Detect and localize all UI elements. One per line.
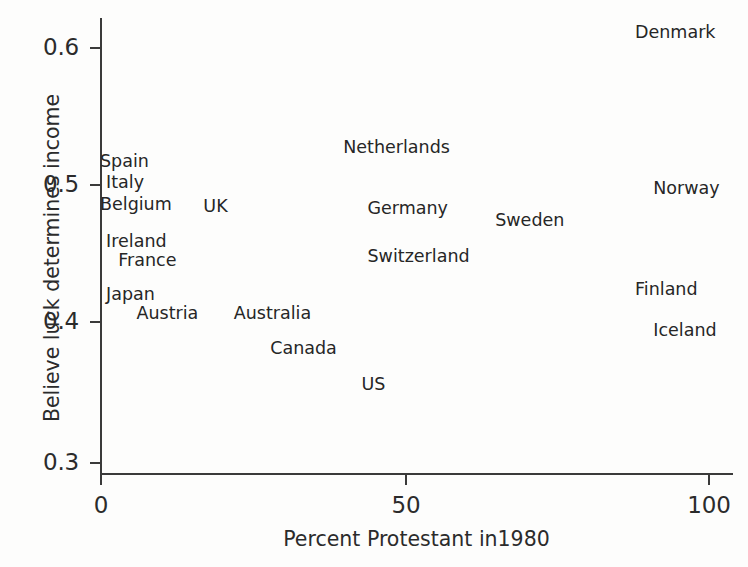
x-tick-50 <box>405 474 407 485</box>
data-point-label: Ireland <box>106 233 167 251</box>
data-point-label: Japan <box>106 286 155 304</box>
x-axis-line <box>100 473 733 475</box>
x-axis-title: Percent Protestant in1980 <box>100 527 733 551</box>
y-axis-title: Believe luck determines income <box>40 58 64 458</box>
data-point-label: Denmark <box>635 24 715 42</box>
data-point-label: Germany <box>368 200 448 218</box>
scatter-plot-figure: 0.6 0.5 0.4 0.3 0 50 100 Believe luck de… <box>0 0 748 567</box>
y-tick-0.4 <box>90 321 101 323</box>
y-tick-0.5 <box>90 184 101 186</box>
data-point-label: Canada <box>270 340 337 358</box>
data-point-label: Switzerland <box>368 248 470 266</box>
data-point-label: Austria <box>136 305 198 323</box>
x-ticklabel-0: 0 <box>71 492 131 518</box>
data-point-label: Finland <box>635 281 698 299</box>
x-tick-100 <box>708 474 710 485</box>
data-point-label: Belgium <box>100 196 172 214</box>
data-point-label: Spain <box>100 153 149 171</box>
x-tick-0 <box>100 474 102 485</box>
data-point-label: Australia <box>234 305 311 323</box>
data-point-label: Sweden <box>495 212 564 230</box>
data-point-label: Netherlands <box>343 139 450 157</box>
data-point-label: France <box>118 252 176 270</box>
y-tick-0.3 <box>90 462 101 464</box>
data-point-label: Norway <box>653 180 719 198</box>
data-point-label: UK <box>203 198 227 216</box>
x-ticklabel-50: 50 <box>376 492 436 518</box>
data-point-label: Italy <box>106 174 144 192</box>
y-axis-line <box>100 18 102 475</box>
y-tick-0.6 <box>90 47 101 49</box>
data-point-label: Iceland <box>653 322 716 340</box>
x-ticklabel-100: 100 <box>679 492 739 518</box>
y-ticklabel-0.6: 0.6 <box>27 34 79 60</box>
data-point-label: US <box>361 376 385 394</box>
